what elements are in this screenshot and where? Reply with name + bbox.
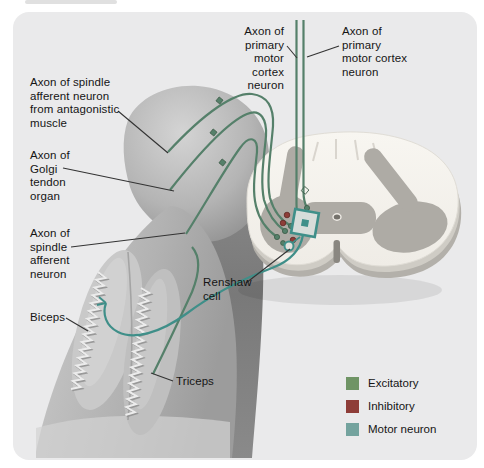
label-cortex-axon-left: Axon of primary motor cortex neuron bbox=[222, 25, 284, 93]
motor-neuron-icon bbox=[291, 209, 319, 237]
ventral-fissure bbox=[334, 240, 341, 263]
legend-label-inhibitory: Inhibitory bbox=[368, 400, 415, 413]
legend-row-excitatory: Excitatory bbox=[346, 377, 436, 390]
figure-canvas: Axon of primary motor cortex neuron Axon… bbox=[0, 0, 484, 468]
legend: Excitatory Inhibitory Motor neuron bbox=[346, 377, 436, 446]
label-renshaw-cell: Renshaw cell bbox=[203, 276, 267, 303]
label-spindle-afferent: Axon of spindle afferent neuron bbox=[30, 227, 100, 281]
label-biceps: Biceps bbox=[30, 311, 65, 325]
label-cortex-axon-right: Axon of primary motor cortex neuron bbox=[342, 25, 412, 79]
label-spindle-antagonistic: Axon of spindle afferent neuron from ant… bbox=[30, 76, 142, 130]
label-golgi-tendon-organ: Axon of Golgi tendon organ bbox=[30, 149, 100, 203]
inhibitory-swatch-icon bbox=[346, 400, 359, 413]
central-canal-icon bbox=[333, 214, 341, 220]
legend-label-excitatory: Excitatory bbox=[368, 377, 419, 390]
legend-row-inhibitory: Inhibitory bbox=[346, 400, 436, 413]
label-triceps: Triceps bbox=[176, 375, 214, 389]
motor-neuron-swatch-icon bbox=[346, 423, 359, 436]
legend-label-motor-neuron: Motor neuron bbox=[368, 423, 436, 436]
legend-row-motor-neuron: Motor neuron bbox=[346, 423, 436, 436]
excitatory-swatch-icon bbox=[346, 377, 359, 390]
